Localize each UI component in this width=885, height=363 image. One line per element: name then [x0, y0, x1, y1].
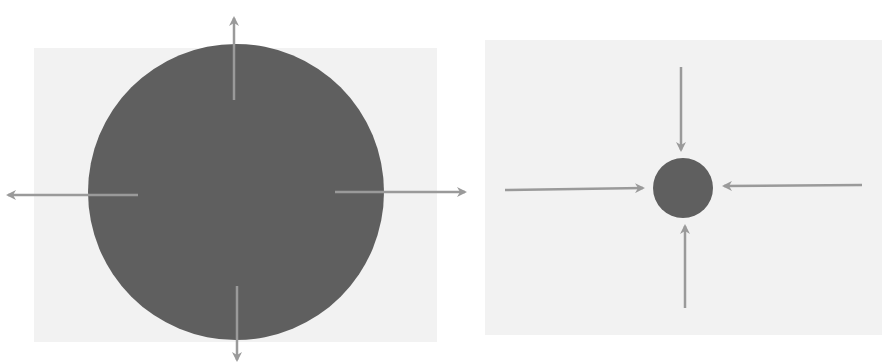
contracting-arrow-right-icon: [505, 188, 643, 190]
contracting-circle: [653, 158, 713, 218]
diagram-canvas: [0, 0, 885, 363]
contracting-arrow-left-icon: [724, 185, 862, 186]
